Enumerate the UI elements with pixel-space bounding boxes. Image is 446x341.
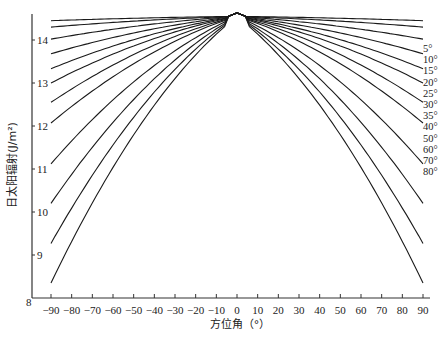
x-tick-label: 50 <box>335 304 347 316</box>
x-tick-label: 60 <box>356 304 368 316</box>
y-tick-label: 13 <box>37 77 49 89</box>
legend-label: 5° <box>423 43 432 54</box>
x-tick-label: 20 <box>273 304 285 316</box>
y-tick-label: 11 <box>37 163 48 175</box>
y-tick-label: 10 <box>37 206 49 218</box>
x-tick-label: 0 <box>234 304 240 316</box>
x-tick-label: −30 <box>166 304 184 316</box>
legend-label: 30° <box>423 99 438 110</box>
x-tick-label: 70 <box>376 304 388 316</box>
curve-5deg <box>51 13 423 21</box>
x-tick-label: 40 <box>314 304 326 316</box>
legend-label: 50° <box>423 133 438 144</box>
curve-35deg <box>51 13 423 102</box>
curve-25deg <box>51 13 423 69</box>
x-tick-label: −40 <box>146 304 164 316</box>
y-tick-label: 9 <box>37 249 43 261</box>
x-tick-label: 10 <box>252 304 264 316</box>
y-ticks: 891011121314 <box>26 34 49 308</box>
legend-label: 60° <box>423 144 438 155</box>
x-axis-title: 方位角（°） <box>210 317 271 331</box>
x-tick-label: −70 <box>84 304 102 316</box>
x-tick-label: 90 <box>418 304 430 316</box>
y-tick-label: 8 <box>26 296 32 308</box>
legend-label: 15° <box>423 65 438 76</box>
curve-50deg <box>51 13 423 164</box>
x-tick-label: −20 <box>187 304 205 316</box>
x-tick-label: 80 <box>397 304 409 316</box>
legend: 5°10°15°20°25°30°35°40°50°60°70°80° <box>423 43 438 177</box>
legend-label: 80° <box>423 166 438 177</box>
curve-70deg <box>51 13 423 244</box>
legend-label: 25° <box>423 88 438 99</box>
legend-label: 10° <box>423 54 438 65</box>
curve-15deg <box>51 13 423 39</box>
legend-label: 35° <box>423 110 438 121</box>
legend-label: 70° <box>423 155 438 166</box>
legend-label: 40° <box>423 121 438 132</box>
x-tick-label: −80 <box>63 304 81 316</box>
y-tick-label: 12 <box>37 120 48 132</box>
x-tick-label: −10 <box>208 304 226 316</box>
curve-10deg <box>51 13 423 27</box>
curve-80deg <box>51 13 423 283</box>
curve-60deg <box>51 13 423 204</box>
chart: 891011121314 −90−80−70−60−50−40−30−20−10… <box>0 0 446 341</box>
y-axis-title: 日太阳辐射(J/m²) <box>5 122 19 208</box>
x-tick-label: −50 <box>125 304 143 316</box>
x-ticks: −90−80−70−60−50−40−30−20−100102030405060… <box>42 294 429 316</box>
series-curves <box>51 13 423 283</box>
x-tick-label: −60 <box>104 304 122 316</box>
x-tick-label: −90 <box>42 304 60 316</box>
axes <box>32 14 430 298</box>
legend-label: 20° <box>423 77 438 88</box>
y-tick-label: 14 <box>37 34 49 46</box>
x-tick-label: 30 <box>294 304 306 316</box>
